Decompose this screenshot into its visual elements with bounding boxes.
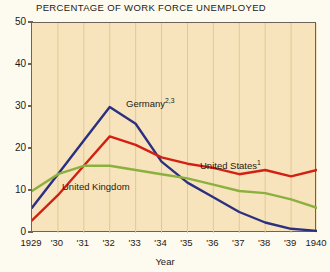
series-annotation-united-states-label: United States	[200, 160, 257, 171]
series-line-united-states	[32, 136, 317, 220]
x-axis-title: Year	[0, 256, 330, 267]
series-annotation-united-kingdom: United Kingdom	[62, 181, 130, 192]
x-tick-label-38: '38	[258, 237, 270, 248]
y-tick-label-20: 20	[0, 142, 26, 153]
x-tick-label-1929: 1929	[20, 237, 41, 248]
series-annotation-united-states: United States1	[200, 160, 261, 171]
x-tick-label-36: '36	[206, 237, 218, 248]
x-tick-label-31: '31	[77, 237, 89, 248]
series-annotation-germany-superscript: 2,3	[165, 97, 174, 104]
x-tick-label-30: '30	[51, 237, 63, 248]
x-tick-label-1940: 1940	[305, 237, 326, 248]
y-tick-label-50: 50	[0, 16, 26, 27]
plot-svg	[32, 23, 317, 233]
y-tick-label-0: 0	[0, 226, 26, 237]
y-tick-label-40: 40	[0, 58, 26, 69]
plot-area	[31, 22, 316, 232]
x-tick-label-32: '32	[103, 237, 115, 248]
chart-title: PERCENTAGE OF WORK FORCE UNEMPLOYED	[36, 2, 266, 13]
x-tick-label-35: '35	[180, 237, 192, 248]
x-tick-label-33: '33	[128, 237, 140, 248]
series-annotation-united-kingdom-label: United Kingdom	[62, 181, 130, 192]
gridlines	[58, 23, 317, 233]
series-annotation-united-states-superscript: 1	[257, 159, 261, 166]
y-tick-label-30: 30	[0, 100, 26, 111]
series-annotation-germany: Germany2,3	[126, 98, 175, 109]
series-lines	[32, 107, 317, 231]
x-tick-label-34: '34	[154, 237, 166, 248]
unemployment-line-chart: PERCENTAGE OF WORK FORCE UNEMPLOYED 0102…	[0, 0, 330, 272]
x-tick-label-39: '39	[284, 237, 296, 248]
y-tick-label-10: 10	[0, 184, 26, 195]
x-tick-label-37: '37	[232, 237, 244, 248]
series-annotation-germany-label: Germany	[126, 98, 165, 109]
